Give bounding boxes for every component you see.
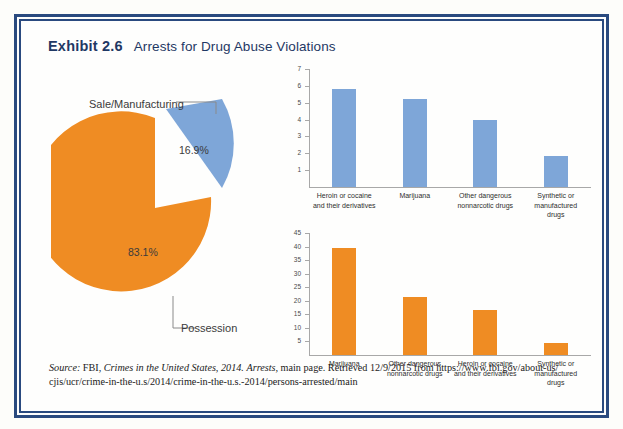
source-agency: FBI,	[83, 362, 101, 373]
y-axis-tick	[305, 287, 309, 288]
bar	[473, 120, 497, 187]
y-axis-tick-label: 5	[283, 337, 301, 344]
y-axis-tick-label: 20	[283, 297, 301, 304]
source-publication: Crimes in the United States, 2014.	[104, 362, 244, 373]
y-axis-tick	[305, 314, 309, 315]
bar	[332, 89, 356, 187]
bar	[403, 297, 427, 355]
x-axis-line	[309, 187, 591, 188]
y-axis-tick	[305, 247, 309, 248]
x-axis-tick-label-line: manufactured	[518, 201, 595, 211]
y-axis-tick	[305, 86, 309, 87]
y-axis-tick-label: 40	[283, 243, 301, 250]
page-title: Arrests for Drug Abuse Violations	[134, 39, 336, 54]
exhibit-heading: Exhibit 2.6Arrests for Drug Abuse Violat…	[48, 37, 336, 55]
y-axis-line	[309, 69, 310, 187]
pie-chart: Sale/Manufacturing Possession 16.9% 83.1…	[51, 66, 281, 341]
source-note: Source: FBI, Crimes in the United States…	[49, 361, 583, 389]
source-section: Arrests,	[246, 362, 278, 373]
y-axis-tick	[305, 136, 309, 137]
y-axis-tick-label: 15	[283, 310, 301, 317]
y-axis-tick	[305, 69, 309, 70]
y-axis-tick	[305, 274, 309, 275]
y-axis-tick	[305, 120, 309, 121]
y-axis-tick	[305, 341, 309, 342]
source-url-line2: cjis/ucr/crime-in-the-u.s/2014/crime-in-…	[49, 376, 358, 387]
y-axis-tick	[305, 328, 309, 329]
y-axis-tick	[305, 301, 309, 302]
x-axis-tick-label-line: and their derivatives	[306, 201, 383, 211]
y-axis-tick-label: 6	[283, 82, 301, 89]
y-axis-tick-label: 35	[283, 256, 301, 263]
y-axis-tick	[305, 233, 309, 234]
x-axis-tick-label-line: Heroin or cocaine	[306, 191, 383, 201]
pie-value-possession: 83.1%	[128, 246, 158, 258]
bar	[403, 99, 427, 187]
x-axis-tick-label: Other dangerousnonnarcotic drugs	[447, 191, 524, 210]
y-axis-tick	[305, 170, 309, 171]
x-axis-tick-label-line: drugs	[518, 210, 595, 220]
x-axis-tick-label-line: Marijuana	[377, 191, 454, 201]
y-axis-tick-label: 25	[283, 283, 301, 290]
bar	[473, 310, 497, 355]
y-axis-tick	[305, 153, 309, 154]
y-axis-tick-label: 45	[283, 229, 301, 236]
source-rest: main page. Retrieved 12/9/2015 from http…	[281, 362, 559, 373]
exhibit-number: Exhibit 2.6	[48, 38, 123, 54]
y-axis-tick-label: 30	[283, 270, 301, 277]
pie-label-sale-manufacturing: Sale/Manufacturing	[89, 98, 184, 110]
bar	[332, 248, 356, 355]
bar-chart-top: 1234567Heroin or cocaineand their deriva…	[283, 65, 595, 215]
y-axis-tick-label: 10	[283, 324, 301, 331]
y-axis-tick-label: 1	[283, 166, 301, 173]
x-axis-tick-label-line: nonnarcotic drugs	[447, 201, 524, 211]
y-axis-line	[309, 233, 310, 355]
x-axis-tick-label-line: Other dangerous	[447, 191, 524, 201]
bar	[544, 156, 568, 187]
figure-canvas: Exhibit 2.6Arrests for Drug Abuse Violat…	[21, 21, 602, 411]
source-label: Source:	[49, 362, 80, 373]
x-axis-tick-label-line: Synthetic or	[518, 191, 595, 201]
y-axis-tick-label: 4	[283, 116, 301, 123]
y-axis-tick-label: 3	[283, 132, 301, 139]
pie-label-possession: Possession	[181, 322, 237, 334]
y-axis-tick-label: 2	[283, 149, 301, 156]
pie-value-sale-manufacturing: 16.9%	[179, 144, 209, 156]
bar	[544, 343, 568, 355]
x-axis-tick-label: Marijuana	[377, 191, 454, 201]
x-axis-tick-label: Heroin or cocaineand their derivatives	[306, 191, 383, 210]
y-axis-tick-label: 5	[283, 99, 301, 106]
exhibit-figure: Exhibit 2.6Arrests for Drug Abuse Violat…	[0, 0, 623, 429]
y-axis-tick	[305, 103, 309, 104]
x-axis-tick-label: Synthetic ormanufactureddrugs	[518, 191, 595, 220]
x-axis-line	[309, 355, 591, 356]
y-axis-tick-label: 7	[283, 65, 301, 72]
y-axis-tick	[305, 260, 309, 261]
